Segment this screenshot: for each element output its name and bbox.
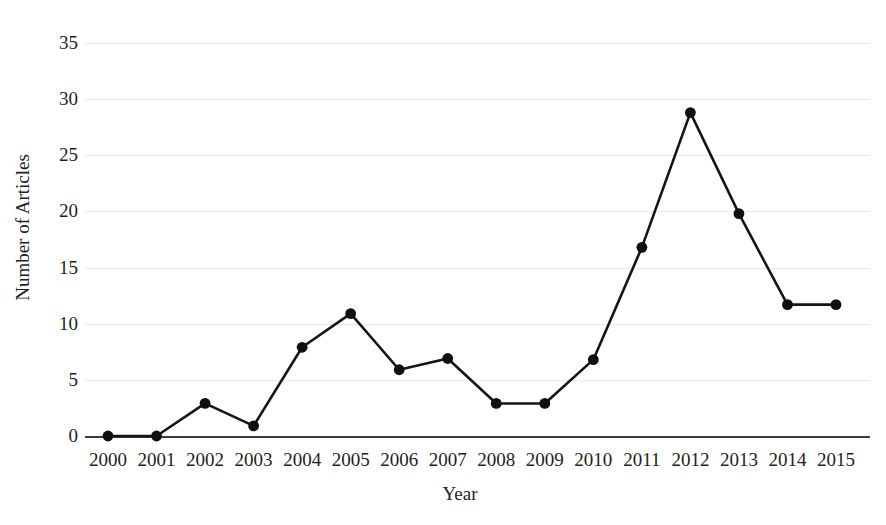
data-point-2015 [831, 299, 842, 310]
data-point-2011 [636, 242, 647, 253]
data-point-2003 [248, 420, 259, 431]
y-axis-title: Number of Articles [13, 133, 32, 323]
data-point-2009 [539, 398, 550, 409]
data-point-2014 [782, 299, 793, 310]
data-point-2007 [442, 353, 453, 364]
data-point-2004 [297, 342, 308, 353]
x-axis-title: Year [0, 483, 886, 504]
data-point-2005 [345, 308, 356, 319]
series-line-number-of-articles [108, 113, 836, 436]
data-point-2000 [103, 431, 114, 442]
plot-area: 05101520253035 2000200120022003200420052… [0, 0, 886, 525]
data-point-2006 [394, 364, 405, 375]
data-point-2008 [491, 398, 502, 409]
data-point-2002 [200, 398, 211, 409]
data-point-2001 [151, 431, 162, 442]
data-series-svg [0, 0, 886, 525]
data-point-2013 [734, 208, 745, 219]
data-point-2012 [685, 107, 696, 118]
data-point-2010 [588, 354, 599, 365]
line-chart-figure: 05101520253035 2000200120022003200420052… [0, 0, 886, 525]
series-markers-group [103, 107, 842, 441]
